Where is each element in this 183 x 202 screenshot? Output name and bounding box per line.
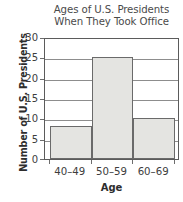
x-axis-tick-mark	[91, 160, 92, 164]
histogram-chart: Ages of U.S. Presidents When They Took O…	[0, 0, 183, 202]
y-axis-tick-label: 25	[14, 53, 38, 63]
x-axis-tick-label: 40–49	[54, 166, 85, 178]
bar	[50, 126, 92, 159]
plot-area	[44, 38, 179, 160]
y-axis-tick-label: 0	[14, 155, 38, 165]
x-axis-tick-labels: 40–4950–5960–69	[44, 166, 179, 180]
y-axis-tick-label: 20	[14, 74, 38, 84]
x-axis-tick-mark	[49, 160, 50, 164]
y-axis-tick-label: 10	[14, 114, 38, 124]
bar	[133, 118, 175, 159]
x-axis-tick-marks	[44, 160, 179, 164]
y-axis-tick-label: 15	[14, 94, 38, 104]
chart-title: Ages of U.S. Presidents When They Took O…	[40, 4, 183, 27]
x-axis-label: Age	[44, 182, 179, 193]
bar-series	[45, 39, 178, 159]
y-axis-tick-label: 30	[14, 33, 38, 43]
x-axis-tick-mark	[132, 160, 133, 164]
y-axis-tick-label: 5	[14, 135, 38, 145]
chart-title-line-2: When They Took Office	[40, 16, 183, 28]
chart-title-line-1: Ages of U.S. Presidents	[40, 4, 183, 16]
x-axis-tick-mark	[174, 160, 175, 164]
y-axis-tick-labels: 051015202530	[14, 38, 38, 160]
x-axis-tick-label: 60–69	[138, 166, 169, 178]
x-axis-tick-label: 50–59	[96, 166, 127, 178]
bar	[92, 57, 134, 159]
